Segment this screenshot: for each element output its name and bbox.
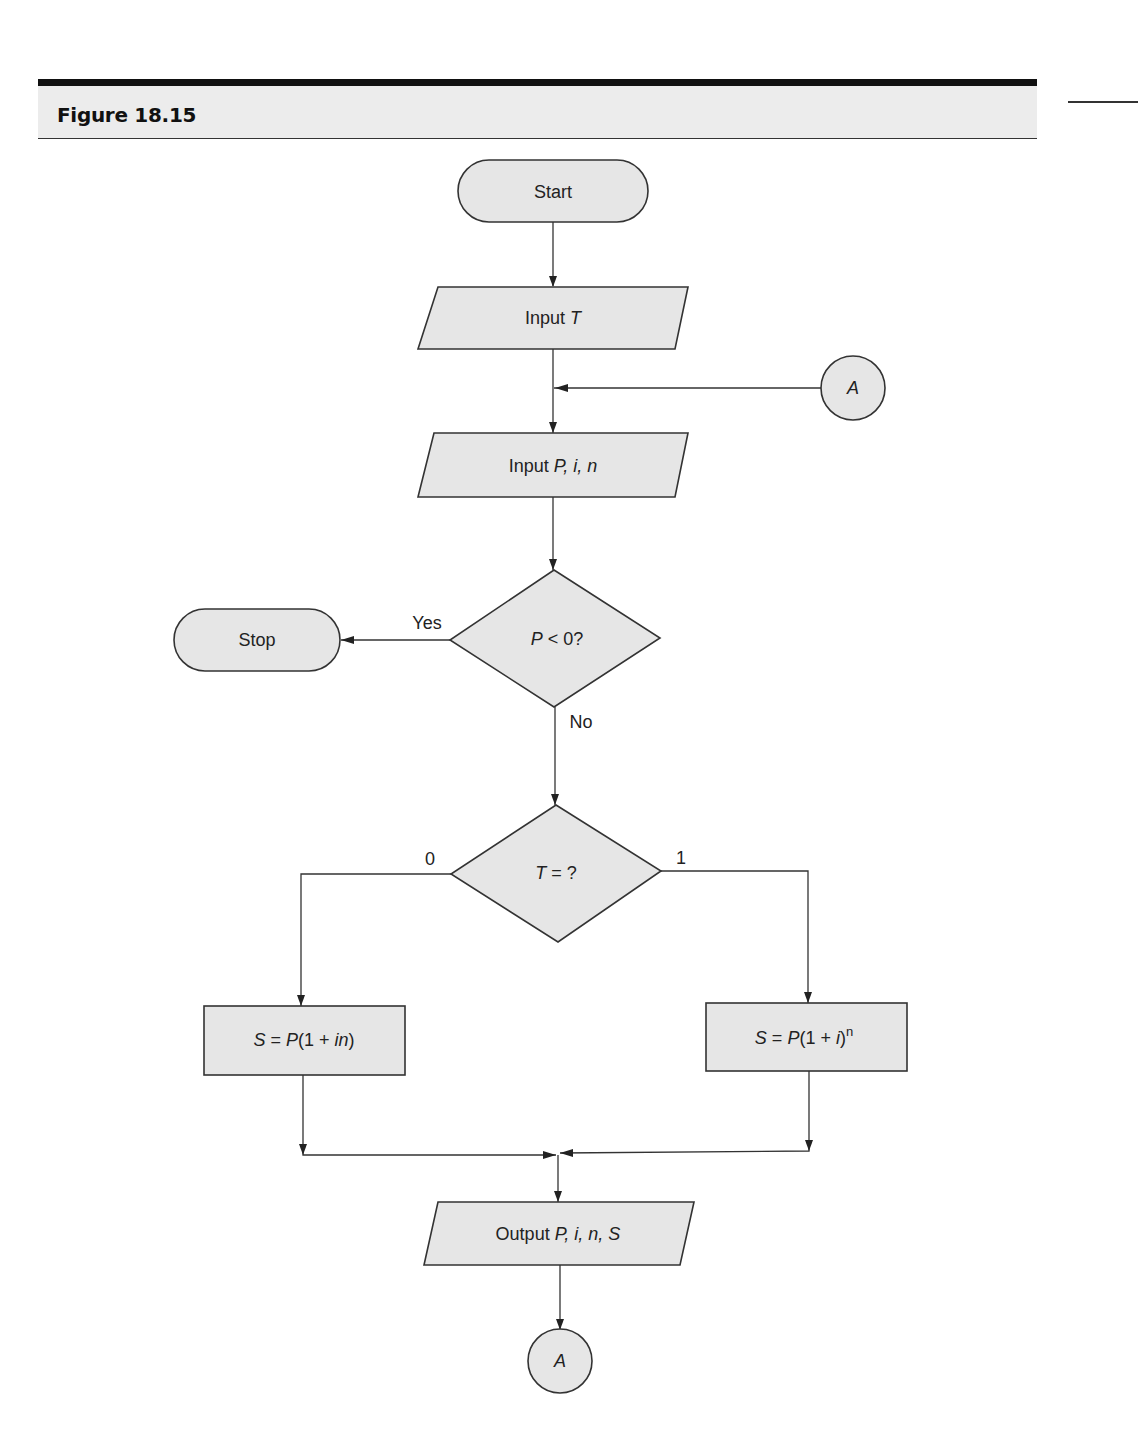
edge-zero-to-simple	[301, 874, 451, 1006]
start-terminal: Start	[458, 160, 648, 222]
arrow-head-icon	[554, 1191, 562, 1202]
edge-label-zero: 0	[425, 849, 435, 869]
arrow-head-icon	[560, 1149, 573, 1157]
arrow-head-icon	[341, 636, 354, 644]
input-pin-label: Input P, i, n	[509, 456, 598, 476]
compound-interest-process: S = P(1 + i)n	[706, 1003, 907, 1071]
input-t-label: Input T	[525, 308, 583, 328]
connector-a-in-label: A	[846, 378, 859, 398]
decision-t-value: T = ?	[451, 805, 661, 942]
decision-p-label: P < 0?	[531, 629, 584, 649]
arrow-head-icon	[549, 422, 557, 433]
connector-a-out: A	[528, 1329, 592, 1393]
output-io: Output P, i, n, S	[424, 1202, 694, 1265]
simple-interest-formula: S = P(1 + in)	[253, 1030, 354, 1050]
edge-label-yes: Yes	[412, 613, 441, 633]
edge-label-no: No	[569, 712, 592, 732]
arrow-head-icon	[555, 384, 568, 392]
connector-a-out-label: A	[553, 1351, 566, 1371]
edge-compound-to-merge	[560, 1071, 809, 1153]
compound-interest-formula: S = P(1 + i)n	[755, 1024, 853, 1048]
arrow-head-icon	[299, 1144, 307, 1155]
arrow-head-icon	[805, 1140, 813, 1151]
decision-p-negative: P < 0?	[450, 570, 660, 707]
arrow-head-icon	[543, 1151, 556, 1159]
edge-simple-to-merge	[303, 1075, 556, 1155]
arrow-head-icon	[297, 995, 305, 1006]
input-t-io: Input T	[418, 287, 688, 349]
arrow-head-icon	[551, 794, 559, 805]
edge-label-one: 1	[676, 848, 686, 868]
start-label: Start	[534, 182, 572, 202]
connector-a-in: A	[821, 356, 885, 420]
decision-t-label: T = ?	[535, 863, 577, 883]
input-pin-io: Input P, i, n	[418, 433, 688, 497]
stop-label: Stop	[238, 630, 275, 650]
arrow-head-icon	[549, 276, 557, 287]
output-label: Output P, i, n, S	[496, 1224, 621, 1244]
flowchart: Start Input T A Input P, i, n P < 0? Yes…	[0, 0, 1138, 1433]
stop-terminal: Stop	[174, 609, 340, 671]
arrow-head-icon	[549, 559, 557, 570]
simple-interest-process: S = P(1 + in)	[204, 1006, 405, 1075]
edge-one-to-compound	[661, 871, 808, 1003]
arrow-head-icon	[804, 992, 812, 1003]
